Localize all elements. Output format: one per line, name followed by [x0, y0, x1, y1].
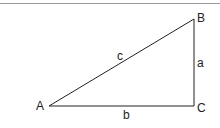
side-label-a: a — [197, 56, 204, 70]
side-label-c: c — [117, 49, 123, 63]
triangle-diagram: A B C a b c — [0, 0, 220, 128]
vertex-label-a: A — [36, 99, 44, 113]
vertex-label-c: C — [197, 101, 206, 115]
side-label-b: b — [123, 108, 130, 122]
vertex-label-b: B — [197, 11, 205, 25]
